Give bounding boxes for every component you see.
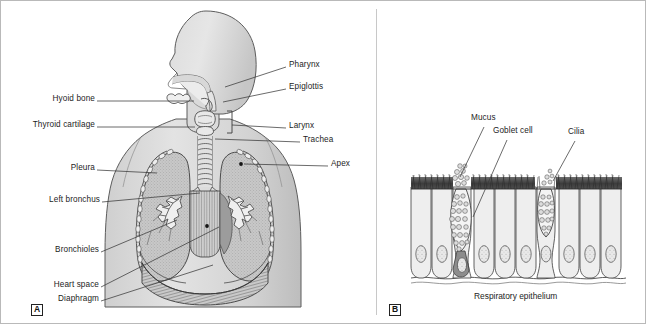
hyoid-bone-shape: [167, 94, 190, 104]
heart-space-marker: [205, 224, 209, 228]
panel-tag-b: B: [389, 304, 401, 316]
label-heart-space: Heart space: [1, 281, 99, 289]
label-left-bronchus: Left bronchus: [1, 196, 100, 204]
label-thyroid-cartilage: Thyroid cartilage: [1, 121, 95, 129]
epithelial-cells: [411, 187, 621, 278]
label-pleura: Pleura: [1, 164, 95, 172]
panel-divider: [376, 9, 377, 315]
label-larynx: Larynx: [289, 122, 314, 130]
label-pharynx: Pharynx: [289, 61, 320, 69]
apex-marker: [239, 162, 243, 166]
label-epiglottis: Epiglottis: [289, 83, 323, 91]
label-diaphragm: Diaphragm: [1, 295, 99, 303]
label-mucus: Mucus: [471, 114, 496, 122]
label-cilia: Cilia: [568, 128, 584, 136]
respiratory-system-figure: Hyoid bone Thyroid cartilage Pleura Left…: [0, 0, 646, 324]
label-hyoid-bone: Hyoid bone: [1, 95, 95, 103]
respiratory-epithelium-artwork: [411, 164, 626, 284]
heart-space: [190, 191, 220, 257]
caption-respiratory-epithelium: Respiratory epithelium: [474, 291, 557, 301]
label-trachea: Trachea: [303, 136, 333, 144]
cilia-band: [411, 174, 622, 189]
label-bronchioles: Bronchioles: [1, 246, 99, 254]
label-goblet-cell: Goblet cell: [493, 127, 533, 135]
thyroid-cartilage-shape: [195, 111, 216, 128]
panel-tag-a: A: [31, 304, 43, 316]
label-apex: Apex: [331, 160, 350, 168]
figure-artwork: [1, 1, 646, 324]
